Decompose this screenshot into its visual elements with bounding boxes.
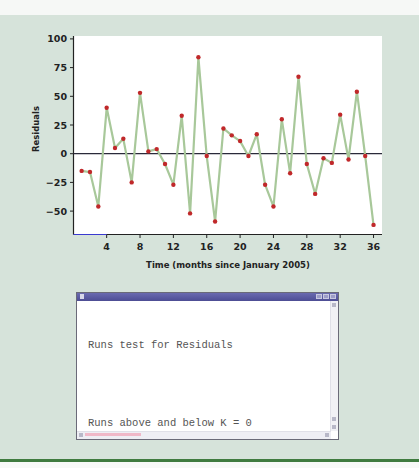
- data-point: [238, 139, 242, 143]
- scroll-up-arrow-icon[interactable]: [332, 303, 336, 307]
- data-point: [355, 90, 359, 94]
- data-point: [271, 204, 275, 208]
- output-line-blank: [88, 456, 321, 468]
- data-point: [313, 192, 317, 196]
- minimize-button[interactable]: [316, 294, 322, 299]
- y-tick-label: 25: [54, 120, 67, 131]
- data-point: [346, 157, 350, 161]
- data-point: [171, 182, 175, 186]
- data-point: [180, 114, 184, 118]
- x-tick-label: 8: [137, 241, 144, 252]
- scroll-left-arrow-icon[interactable]: [79, 433, 83, 437]
- data-point: [138, 91, 142, 95]
- output-line-title: Runs test for Residuals: [88, 339, 321, 352]
- data-point: [104, 106, 108, 110]
- x-tick-label: 16: [200, 241, 214, 252]
- window-app-icon: [80, 294, 84, 299]
- x-tick-label: 12: [167, 241, 180, 252]
- data-point: [155, 147, 159, 151]
- data-point: [296, 75, 300, 79]
- data-point: [371, 223, 375, 227]
- runs-test-window: Runs test for Residuals Runs above and b…: [76, 292, 339, 440]
- data-point: [288, 171, 292, 175]
- x-axis: 4812162024283236: [74, 235, 383, 253]
- scroll-right-arrow-icon[interactable]: [325, 433, 329, 437]
- horizontal-scroll-thumb[interactable]: [85, 433, 141, 436]
- data-point: [163, 162, 167, 166]
- data-point: [255, 132, 259, 136]
- data-point: [188, 211, 192, 215]
- data-point: [230, 133, 234, 137]
- x-tick-label: 24: [267, 241, 281, 252]
- data-point: [363, 154, 367, 158]
- y-tick-label: 0: [60, 148, 67, 159]
- scroll-down-arrow-icon[interactable]: [332, 417, 336, 421]
- runs-test-output: Runs test for Residuals Runs above and b…: [88, 313, 321, 468]
- data-point: [263, 182, 267, 186]
- y-tick-label: −50: [46, 206, 68, 217]
- maximize-button[interactable]: [323, 294, 329, 299]
- x-tick-label: 4: [103, 241, 110, 252]
- close-button[interactable]: [330, 294, 336, 299]
- data-point: [338, 112, 342, 116]
- data-point: [113, 146, 117, 150]
- y-tick-label: 100: [47, 33, 67, 44]
- y-axis: 1007550250−25−50: [46, 33, 74, 234]
- data-point: [213, 219, 217, 223]
- horizontal-scrollbar[interactable]: [77, 431, 331, 439]
- x-tick-label: 20: [233, 241, 247, 252]
- x-tick-label: 28: [300, 241, 314, 252]
- x-tick-label: 32: [334, 241, 347, 252]
- data-point: [196, 55, 200, 59]
- scroll-down-arrow-icon[interactable]: [332, 425, 336, 429]
- data-point: [321, 156, 325, 160]
- data-point: [88, 170, 92, 174]
- y-tick-label: −25: [46, 177, 67, 188]
- data-point: [129, 180, 133, 184]
- y-tick-label: 75: [54, 62, 67, 73]
- data-point: [246, 154, 250, 158]
- data-point: [205, 154, 209, 158]
- data-point: [305, 162, 309, 166]
- y-axis-title: Residuals: [31, 106, 41, 152]
- data-point: [96, 204, 100, 208]
- x-axis-title: Time (months since January 2005): [146, 260, 310, 270]
- data-point: [79, 169, 83, 173]
- window-title-bar[interactable]: [77, 293, 338, 301]
- data-point: [221, 126, 225, 130]
- data-point: [280, 117, 284, 121]
- output-line-blank: [88, 378, 321, 391]
- output-line-k: Runs above and below K = 0: [88, 417, 321, 430]
- data-point: [146, 149, 150, 153]
- vertical-scrollbar[interactable]: [330, 301, 338, 431]
- residuals-chart: 1007550250−25−50 4812162024283236 Residu…: [0, 0, 419, 290]
- y-tick-label: 50: [54, 91, 68, 102]
- x-tick-label: 36: [367, 241, 381, 252]
- data-point: [121, 137, 125, 141]
- data-point: [330, 161, 334, 165]
